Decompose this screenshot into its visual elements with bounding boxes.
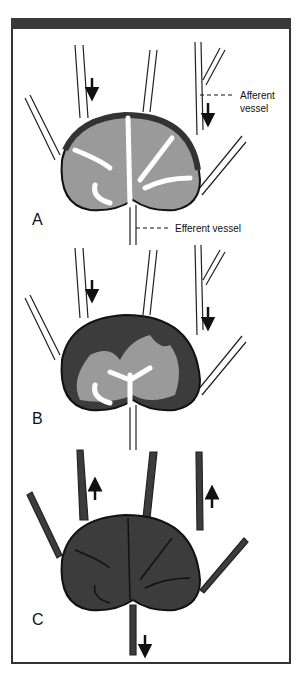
panel-a: A Afferent vessel Efferent vessel	[25, 42, 275, 245]
panel-label-a: A	[32, 211, 43, 228]
panel-c: C	[27, 450, 248, 655]
lymph-node-diagram: A Afferent vessel Efferent vessel B	[0, 0, 296, 682]
panel-label-c: C	[32, 611, 44, 628]
afferent-label-line1: Afferent	[240, 90, 275, 101]
efferent-label: Efferent vessel	[175, 223, 241, 234]
panel-b: B	[25, 245, 246, 450]
afferent-label-line2: vessel	[240, 103, 268, 114]
panel-label-b: B	[32, 410, 43, 427]
